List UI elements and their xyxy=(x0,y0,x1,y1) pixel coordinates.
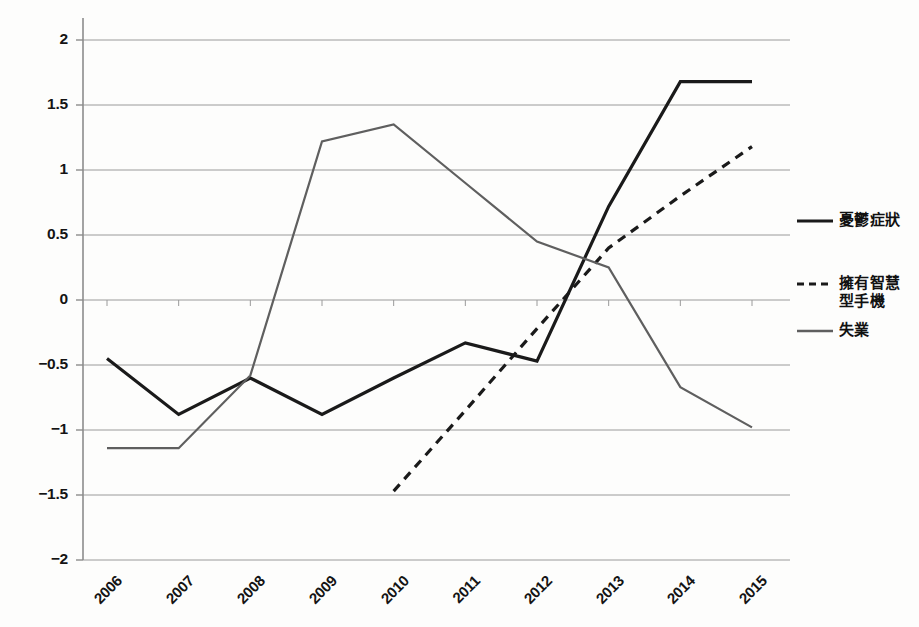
series-line-1 xyxy=(107,82,752,415)
legend-item-2[interactable]: 擁有智慧型手機 xyxy=(797,275,900,310)
gridlines xyxy=(83,40,790,560)
series-line-3 xyxy=(107,125,752,449)
chart-container: 21.510.50−0.5−1−1.5−2 200620072008200920… xyxy=(0,0,919,627)
legend-item-1[interactable]: 憂鬱症狀 xyxy=(797,212,900,230)
y-tick-label: −2 xyxy=(8,550,68,568)
legend-label: 擁有智慧型手機 xyxy=(839,275,900,310)
y-tick-label: −1 xyxy=(8,420,68,438)
y-tick-label: 0 xyxy=(8,290,68,308)
legend-label: 失業 xyxy=(839,322,870,340)
y-tick-label: 2 xyxy=(8,30,68,48)
y-tick-label: −0.5 xyxy=(8,355,68,373)
y-tick-label: −1.5 xyxy=(8,485,68,503)
y-tick-label: 0.5 xyxy=(8,225,68,243)
legend-line-swatch-icon xyxy=(797,215,833,229)
legend-label: 憂鬱症狀 xyxy=(839,212,900,230)
legend-item-3[interactable]: 失業 xyxy=(797,322,870,340)
legend-line-swatch-icon xyxy=(797,325,833,339)
series-line-2 xyxy=(394,147,752,492)
y-tick-label: 1.5 xyxy=(8,95,68,113)
line-chart-plot xyxy=(0,0,919,627)
legend-line-swatch-icon xyxy=(797,278,833,292)
y-tick-label: 1 xyxy=(8,160,68,178)
